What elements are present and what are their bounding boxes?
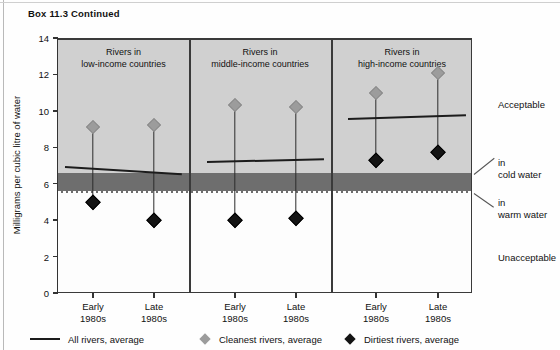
- annotation-warm-water-line2: warm water: [498, 209, 547, 221]
- x-tick: [153, 293, 154, 298]
- panel-divider: [189, 38, 191, 293]
- panel-title-3: Rivers inhigh-income countries: [331, 46, 473, 70]
- y-tick-label: 10: [38, 105, 49, 116]
- x-tick-label: Early1980s: [80, 301, 106, 325]
- y-axis-label: Milligrams per cubic litre of water: [11, 96, 22, 234]
- annotation-unacceptable-line1: Unacceptable: [498, 252, 556, 264]
- x-tick-label-period: Late: [141, 301, 167, 313]
- dirtiest-rivers-marker: [431, 144, 446, 159]
- y-tick: [53, 74, 58, 75]
- x-tick-label: Early1980s: [222, 301, 248, 325]
- annotation-cold-water-line1: in: [498, 157, 541, 169]
- x-tick: [437, 293, 438, 298]
- range-stem: [92, 127, 93, 202]
- cleanest-rivers-marker: [369, 86, 383, 100]
- y-tick: [53, 147, 58, 148]
- x-tick-label-period: Early: [222, 301, 248, 313]
- annotation-warm-water-line1: in: [498, 197, 547, 209]
- range-stem: [295, 107, 296, 218]
- legend-label: Cleanest rivers, average: [219, 334, 322, 345]
- plot-border-top: [58, 38, 472, 40]
- y-tick-label: 4: [44, 215, 49, 226]
- page-title: Box 11.3 Continued: [28, 8, 120, 19]
- page-top-rule: [0, 2, 560, 3]
- annotation-cold-water-leader-line: [474, 158, 495, 175]
- region-threshold-band: [58, 173, 472, 193]
- panel-title-line2: middle-income countries: [189, 58, 331, 70]
- x-tick-label-decade: 1980s: [80, 313, 106, 325]
- x-tick-label-decade: 1980s: [283, 313, 309, 325]
- y-tick-label: 6: [44, 178, 49, 189]
- panel-title-line1: Rivers in: [189, 46, 331, 58]
- region-unacceptable: [58, 193, 472, 293]
- panel-title-2: Rivers inmiddle-income countries: [189, 46, 331, 70]
- x-tick-label-decade: 1980s: [141, 313, 167, 325]
- annotation-acceptable: Acceptable: [498, 99, 545, 111]
- all-rivers-average-line: [348, 114, 466, 119]
- annotation-unacceptable: Unacceptable: [498, 252, 556, 264]
- panel-title-line1: Rivers in: [331, 46, 473, 58]
- page-canvas: Box 11.3 Continued Milligrams per cubic …: [0, 0, 560, 350]
- x-tick-label: Late1980s: [283, 301, 309, 325]
- plot-border-right: [471, 38, 473, 293]
- x-tick-label-period: Early: [80, 301, 106, 313]
- panel-title-line1: Rivers in: [58, 46, 189, 58]
- page-left-rule: [3, 0, 4, 350]
- legend-cleanest-diamond-marker: [199, 333, 210, 344]
- dirtiest-rivers-marker: [369, 153, 384, 168]
- legend-line-marker: [30, 338, 60, 340]
- legend-label: Dirtiest rivers, average: [364, 334, 459, 345]
- y-tick: [53, 292, 58, 293]
- y-tick-label: 2: [44, 251, 49, 262]
- y-tick: [53, 110, 58, 111]
- y-tick: [53, 219, 58, 220]
- range-stem: [375, 93, 376, 160]
- y-tick: [53, 256, 58, 257]
- annotation-warm-water-leader-line: [474, 193, 495, 208]
- annotation-warm-water: inwarm water: [498, 197, 547, 221]
- cleanest-rivers-marker: [289, 100, 303, 114]
- x-tick: [92, 293, 93, 298]
- all-rivers-average-line: [207, 158, 324, 163]
- x-tick: [295, 293, 296, 298]
- annotation-cold-water: incold water: [498, 157, 541, 181]
- legend-dirtiest-diamond-marker: [344, 333, 355, 344]
- x-tick-label: Early1980s: [363, 301, 389, 325]
- x-tick: [234, 293, 235, 298]
- x-tick-label-decade: 1980s: [425, 313, 451, 325]
- range-stem: [437, 73, 438, 152]
- plot-border-bottom: [58, 292, 472, 294]
- panel-title-line2: high-income countries: [331, 58, 473, 70]
- y-tick-label: 0: [44, 288, 49, 299]
- legend-item-3: Dirtiest rivers, average: [345, 331, 459, 347]
- legend-item-1: All rivers, average: [30, 331, 144, 347]
- annotation-cold-water-line2: cold water: [498, 169, 541, 181]
- x-tick-label: Late1980s: [425, 301, 451, 325]
- y-tick: [53, 183, 58, 184]
- y-tick-label: 8: [44, 142, 49, 153]
- panel-title-1: Rivers inlow-income countries: [58, 46, 189, 70]
- y-tick: [53, 37, 58, 38]
- legend-item-2: Cleanest rivers, average: [200, 331, 322, 347]
- legend-label: All rivers, average: [68, 334, 144, 345]
- annotation-acceptable-line1: Acceptable: [498, 99, 545, 111]
- x-tick-label-period: Late: [283, 301, 309, 313]
- x-tick-label-decade: 1980s: [363, 313, 389, 325]
- cleanest-rivers-marker: [86, 120, 100, 134]
- cleanest-rivers-marker: [228, 98, 242, 112]
- x-tick: [375, 293, 376, 298]
- panel-title-line2: low-income countries: [58, 58, 189, 70]
- panel-divider: [331, 38, 333, 293]
- plot-area: 02468101214 Early1980sLate1980sEarly1980…: [57, 38, 472, 293]
- x-tick-label-decade: 1980s: [222, 313, 248, 325]
- y-tick-label: 12: [38, 69, 49, 80]
- range-stem: [234, 105, 235, 220]
- warm-water-threshold-dashed-line: [58, 191, 472, 193]
- chart-legend: All rivers, averageCleanest rivers, aver…: [30, 331, 530, 347]
- cleanest-rivers-marker: [147, 118, 161, 132]
- y-tick-label: 14: [38, 33, 49, 44]
- x-tick-label: Late1980s: [141, 301, 167, 325]
- x-tick-label-period: Early: [363, 301, 389, 313]
- x-tick-label-period: Late: [425, 301, 451, 313]
